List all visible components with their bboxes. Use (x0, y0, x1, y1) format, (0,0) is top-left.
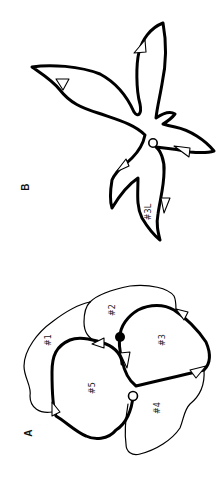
region-label-5: #5 (88, 382, 97, 394)
panel-a: A #1 #2 #3 #4 #5 (23, 285, 210, 454)
region-label-4: #4 (153, 402, 162, 414)
panel-a-label: A (23, 429, 34, 436)
arrow-icon (161, 198, 170, 213)
region-label-1: #1 (44, 334, 53, 346)
arrow-icon (134, 40, 146, 53)
panel-b-label: B (20, 183, 31, 190)
region-label-3L: #3L (144, 203, 153, 220)
region-label-3: #3 (158, 334, 167, 346)
region-1-to-2 (84, 302, 98, 343)
arrow-icon (174, 146, 190, 157)
panel-b: B #3L (20, 23, 214, 240)
panel-b-hub-marker (149, 139, 157, 147)
arrow-icon (116, 159, 129, 172)
arrow-icon (52, 402, 60, 416)
figure-canvas: B #3L A #1 (0, 0, 224, 500)
start-marker-filled (115, 332, 125, 342)
region-4-outline (125, 370, 204, 455)
region-1-outline (24, 302, 90, 412)
end-marker-open (129, 392, 138, 401)
region-label-2: #2 (108, 304, 117, 316)
panel-b-outline (32, 23, 214, 240)
